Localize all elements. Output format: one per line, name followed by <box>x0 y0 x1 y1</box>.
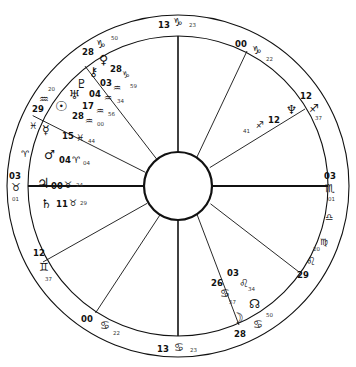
planet-jupiter-minute: 24 <box>76 183 83 189</box>
astrology-chart: 13 ♑ 23 00 ♑ 22 12 ♐ 37 03 ♏ 01 29 ♌ 20 … <box>0 0 356 367</box>
planet-jupiter-glyph: ♃ <box>37 176 50 190</box>
sign-marker-virgo: ♍ <box>320 238 328 247</box>
cusp-5-degree: 28 <box>234 330 246 339</box>
planet-uranus-minute: 34 <box>117 99 124 105</box>
planet-neptune-sign: ♐ <box>256 121 264 130</box>
cusp-11-minute: 50 <box>111 36 118 42</box>
planet-chiron-sign: ♒ <box>113 84 121 93</box>
cusp-10-minute: 23 <box>189 23 196 29</box>
center-hub-circle <box>144 152 212 220</box>
cusp-7-minute: 01 <box>328 197 335 203</box>
planet-moon-glyph: ☽ <box>231 311 244 325</box>
cusp-3-sign: ♋ <box>100 320 110 331</box>
planet-sun-degree: 17 <box>82 102 94 111</box>
sign-marker-libra: ♎ <box>325 213 333 222</box>
planet-uranus-glyph: ♅ <box>69 89 80 102</box>
group-cancer-sign: ♋ <box>220 288 230 299</box>
group-cancer-minute: 57 <box>229 300 236 306</box>
cusp-11-degree: 28 <box>82 48 94 57</box>
planet-uranus-degree: 04 <box>89 90 101 99</box>
cusp-12-degree: 29 <box>32 105 44 114</box>
planet-sun-glyph: ☉ <box>55 99 68 113</box>
planet-saturn-glyph: ♄ <box>41 198 52 211</box>
cusp-8-minute: 37 <box>315 116 322 122</box>
cusp-1-minute: 01 <box>12 197 19 203</box>
cusp-6-sign: ♌ <box>306 256 316 267</box>
planet-mars-glyph: ♂ <box>44 149 55 162</box>
cusp-4-sign: ♋ <box>174 342 184 353</box>
cusp-9-minute: 22 <box>266 57 273 63</box>
planet-north-node-glyph: ☊ <box>249 298 260 311</box>
cusp-3-degree: 00 <box>81 315 93 324</box>
cusp-4-minute: 23 <box>190 348 197 354</box>
planet-pluto-sign: ♑ <box>122 71 130 80</box>
planet-pluto-degree: 28 <box>110 65 122 74</box>
planet-mars-degree: 04 <box>59 156 71 165</box>
planet-mercury-glyph: ☿ <box>42 124 50 137</box>
cusp-12-sign: ♒ <box>39 94 49 105</box>
planet-jupiter-sign: ♉ <box>64 181 72 190</box>
cusp-2-minute: 37 <box>45 277 52 283</box>
cusp-7-degree: 03 <box>324 172 336 181</box>
cusp-10-degree: 13 <box>158 21 170 30</box>
planet-neptune-minute: 41 <box>243 129 250 135</box>
planet-saturn-degree: 11 <box>56 200 68 209</box>
cusp-2-degree: 12 <box>33 249 45 258</box>
planet-sun-sign: ♒ <box>96 107 104 116</box>
cusp-11-sign: ♑ <box>96 39 106 50</box>
cusp-2-sign: ♊ <box>39 262 49 273</box>
cusp-10-sign: ♑ <box>173 17 183 28</box>
planet-mercury-degree: 15 <box>62 132 74 141</box>
planet-sun-minute: 56 <box>108 112 115 118</box>
cusp-5-sign: ♋ <box>253 319 263 330</box>
planet-mars-sign: ♈ <box>72 156 80 165</box>
cusp-5-minute: 50 <box>266 313 273 319</box>
planet-neptune-aq-minute: 00 <box>97 122 104 128</box>
planet-venus-glyph: ♀ <box>99 54 108 67</box>
sign-marker-pisces: ♓ <box>29 122 37 131</box>
planet-jupiter-degree: 00 <box>51 182 63 191</box>
planet-mercury-sign: ♓ <box>76 134 84 143</box>
planet-neptune-degree: 12 <box>268 116 280 125</box>
cusp-4-degree: 13 <box>157 345 169 354</box>
planet-neptune-glyph: ♆ <box>286 104 297 117</box>
planet-chiron-glyph: ⚷ <box>89 66 98 79</box>
planet-mercury-minute: 44 <box>88 139 95 145</box>
cusp-7-sign: ♏ <box>325 183 335 194</box>
cusp-9-degree: 00 <box>235 40 247 49</box>
cusp-9-sign: ♑ <box>252 45 262 56</box>
planet-saturn-sign: ♉ <box>69 199 77 208</box>
planet-saturn-minute: 29 <box>80 201 87 207</box>
cusp-6-degree: 29 <box>297 271 309 280</box>
cusp-12-minute: 20 <box>48 87 55 93</box>
sign-marker-aries: ♈ <box>21 150 29 159</box>
planet-pluto-minute: 59 <box>130 84 137 90</box>
planet-neptune-aq-sign: ♒ <box>85 117 93 126</box>
planet-neptune-aq-degree: 28 <box>72 112 84 121</box>
planet-mars-minute: 04 <box>83 161 90 167</box>
planet-chiron-degree: 03 <box>100 79 112 88</box>
planet-uranus-sign: ♒ <box>104 94 112 103</box>
cusp-1-degree: 03 <box>9 172 21 181</box>
cusp-1-sign: ♉ <box>11 182 21 193</box>
cusp-8-sign: ♐ <box>309 103 319 114</box>
group-leo-degree: 03 <box>227 269 239 278</box>
cusp-6-minute: 20 <box>313 247 320 253</box>
group-leo-minute: 34 <box>248 287 255 293</box>
cusp-3-minute: 22 <box>113 331 120 337</box>
cusp-8-degree: 12 <box>300 92 312 101</box>
